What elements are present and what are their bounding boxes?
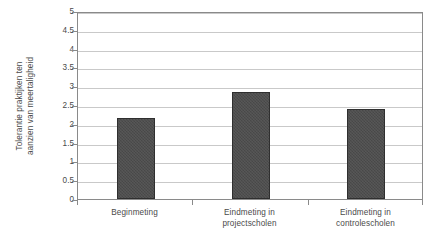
gridline [78,32,422,33]
x-axis-tick-marks [77,200,423,206]
y-axis-title-line-2: aanzien van meertaligheid [25,57,36,155]
x-axis-category-label-line: Beginmeting [77,207,192,218]
bar [347,109,385,199]
x-axis-category-label-line: Eindmeting in [192,207,307,218]
y-axis-title-line-1: Tolerantie praktijken ten [14,57,25,155]
y-axis-title: Tolerantie praktijken ten aanzien van me… [0,0,50,212]
gridline [78,69,422,70]
x-axis-tick-mark [422,200,423,205]
plot-area [77,12,423,200]
gridline [78,13,422,14]
x-axis-category-label: Beginmeting [77,207,192,218]
x-axis-tick-mark [308,200,309,205]
gridline [78,88,422,89]
x-axis-category-label-line: projectscholen [192,218,307,229]
gridline [78,51,422,52]
bar [232,92,270,199]
x-axis-category-label-line: Eindmeting in [308,207,423,218]
x-axis-category-label: Eindmeting inprojectscholen [192,207,307,229]
x-axis-category-label: Eindmeting incontrolescholen [308,207,423,229]
x-axis-category-label-line: controlescholen [308,218,423,229]
x-axis-tick-mark [77,200,78,205]
x-axis-category-labels: BeginmetingEindmeting inprojectscholenEi… [77,207,423,245]
x-axis-tick-mark [192,200,193,205]
y-axis-tick-labels: 00.511.522.533.544.55 [52,0,74,212]
bar-chart: Tolerantie praktijken ten aanzien van me… [0,0,437,245]
bar [117,118,155,199]
